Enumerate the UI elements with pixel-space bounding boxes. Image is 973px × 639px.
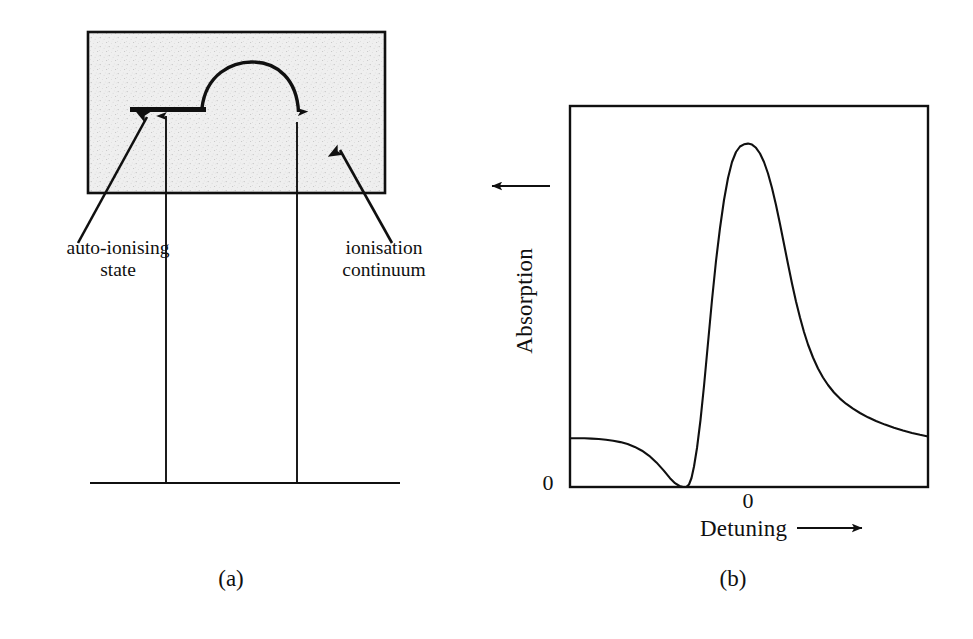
ionisation-continuum-label: ionisation continuum [300,237,468,281]
plot-frame [570,106,928,487]
panel-b-caption: (b) [688,566,778,592]
figure-root: auto-ionising state ionisation continuum… [0,0,973,639]
y-axis-title: Absorption [512,221,538,381]
x-axis-zero-tick-label: 0 [735,489,761,514]
ionisation-continuum-box [88,32,385,193]
figure-canvas [0,0,973,639]
x-axis-title: Detuning [700,516,787,542]
y-axis-zero-tick-label: 0 [535,471,561,496]
auto-ionising-state-label: auto-ionising state [34,237,202,281]
panel-b-plot [570,106,928,487]
panel-a-caption: (a) [186,566,276,592]
